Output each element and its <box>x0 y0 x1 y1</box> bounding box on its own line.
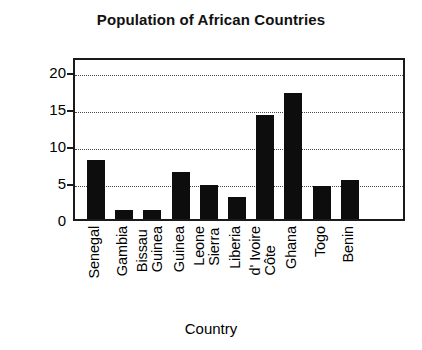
plot-area <box>73 58 405 221</box>
gridline <box>75 75 403 76</box>
y-axis-tick-label: 20 <box>26 65 66 80</box>
x-axis-tick-label-line: d' Ivoire <box>248 226 263 275</box>
x-axis-tick-label: Senegal <box>88 226 100 321</box>
x-axis-tick-label: Togo <box>314 226 326 321</box>
x-axis-tick-label: Liberia <box>229 226 241 321</box>
x-axis-tick-label: SierraLeone <box>201 226 213 321</box>
chart-title: Population of African Countries <box>0 11 422 28</box>
bar <box>284 93 302 219</box>
bar <box>200 185 218 219</box>
x-axis-tick-label-line: Senegal <box>87 226 102 279</box>
x-axis-tick-label-line: Benin <box>340 226 355 263</box>
x-axis-tick-label: GuineaBissau <box>144 226 156 321</box>
x-axis-tick-label-line: Sierra <box>207 226 222 266</box>
y-axis-tick-label: 0 <box>26 213 66 228</box>
x-axis-tick-label-line: Côte <box>263 226 278 275</box>
y-axis-tick-label: 15 <box>26 102 66 117</box>
x-axis-tick-label: Ghana <box>285 226 297 321</box>
y-axis-tick-label: 5 <box>26 176 66 191</box>
bar <box>256 115 274 219</box>
x-axis-tick-label-line: Gambia <box>115 226 130 276</box>
x-axis-tick-label-line: Leone <box>192 226 207 266</box>
bar <box>313 186 331 219</box>
x-axis-tick-label-line: Ghana <box>284 226 299 269</box>
bar <box>341 180 359 219</box>
x-axis-tick-label: Guinea <box>173 226 185 321</box>
bar <box>115 210 133 219</box>
x-axis-tick-label-line: Togo <box>312 226 327 257</box>
x-axis-tick-label: Benin <box>342 226 354 321</box>
x-axis-tick-label-line: Guinea <box>171 226 186 272</box>
bar <box>143 210 161 219</box>
x-axis-tick-label-line: Liberia <box>228 226 243 269</box>
gridline <box>75 149 403 150</box>
bar <box>172 172 190 219</box>
bar <box>228 197 246 219</box>
x-axis-tick-label-line: Guinea <box>150 226 165 272</box>
y-axis-tick-label: 10 <box>26 139 66 154</box>
x-axis-tick-label: Gambia <box>116 226 128 321</box>
bar <box>87 160 105 219</box>
x-axis-label: Country <box>0 320 422 337</box>
x-axis-tick-label: Côted' Ivoire <box>257 226 269 321</box>
gridline <box>75 112 403 113</box>
chart-figure: Population of African Countries Populati… <box>0 0 422 350</box>
